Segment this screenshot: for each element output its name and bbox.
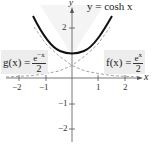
f-function-label: f(x) = ex 2: [104, 50, 145, 74]
x-tick-label-m1: −1: [39, 82, 49, 92]
y-tick-label-m2: −2: [58, 123, 68, 133]
y-tick-label-m1: −1: [58, 98, 68, 108]
y-tick-label-2: 2: [62, 22, 67, 32]
f-left: f(x) =: [106, 56, 131, 68]
y-axis-label: y: [69, 0, 73, 7]
x-tick-label-2: 2: [123, 82, 128, 92]
x-tick-label-1: 1: [96, 82, 101, 92]
g-left: g(x) =: [3, 56, 30, 68]
plot-area: [0, 0, 152, 155]
g-function-label: g(x) = e−x 2: [1, 50, 48, 74]
x-tick-label-m2: −2: [12, 82, 22, 92]
cosh-label: y = cosh x: [87, 0, 133, 12]
